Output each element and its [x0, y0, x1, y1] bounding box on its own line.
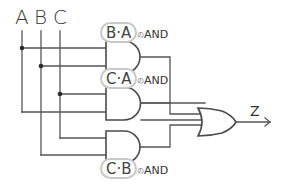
- or-gate: [198, 108, 236, 136]
- input-label-c: C: [53, 5, 67, 29]
- input-label-a: A: [15, 5, 29, 29]
- particle-text: の: [137, 167, 144, 175]
- and-suffix: AND: [144, 28, 168, 41]
- term-label-and2: C·A の AND: [101, 69, 168, 88]
- particle-text: の: [137, 31, 144, 39]
- junction-dot-c: [58, 92, 63, 97]
- output-label-z: Z: [250, 103, 260, 119]
- and-gate-2: [106, 87, 141, 120]
- input-label-b: B: [34, 5, 47, 29]
- term-label-and1: B·A の AND: [101, 23, 168, 42]
- junction-dot-b: [39, 64, 44, 69]
- and-suffix: AND: [144, 164, 168, 177]
- logic-circuit-diagram: A B C Z B·A の AND C·A の AND: [0, 0, 286, 191]
- junction-dot-a: [20, 46, 25, 51]
- wire-and3-to-or: [140, 125, 205, 147]
- term-text: B·A: [106, 24, 132, 42]
- term-text: C·A: [106, 70, 132, 88]
- term-label-and3: C·B の AND: [101, 159, 168, 178]
- term-text: C·B: [106, 160, 132, 178]
- particle-text: の: [137, 77, 144, 85]
- and-suffix: AND: [144, 74, 168, 87]
